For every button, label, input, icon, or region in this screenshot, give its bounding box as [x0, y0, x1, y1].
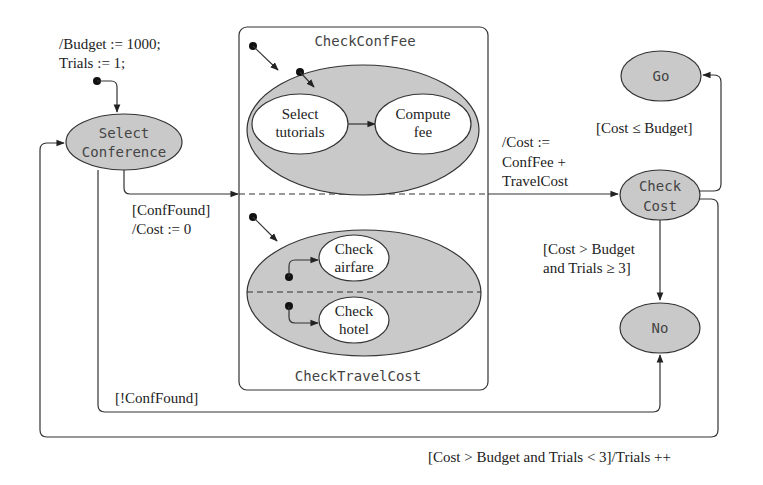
- state-select-conference-line1: Select: [99, 125, 150, 141]
- state-select-conference[interactable]: Select Conference: [66, 114, 182, 170]
- transition-conf-found-line2: /Cost := 0: [132, 221, 191, 237]
- initial-action-line1: /Budget := 1000;: [59, 36, 161, 52]
- substate-compute-fee-line1: Compute: [396, 106, 451, 122]
- transition-to-check-cost-line3: TravelCost: [502, 173, 569, 189]
- transition-retry-label: [Cost > Budget and Trials < 3]/Trials ++: [428, 449, 671, 465]
- state-no[interactable]: No: [620, 303, 700, 353]
- substate-select-tutorials[interactable]: Select tutorials: [252, 94, 348, 154]
- transition-cost-ok: [700, 75, 721, 191]
- substate-check-airfare[interactable]: Check airfare: [319, 235, 389, 281]
- substate-compute-fee-line2: fee: [414, 124, 433, 140]
- substate-check-airfare-line2: airfare: [334, 259, 373, 275]
- substate-check-hotel[interactable]: Check hotel: [319, 297, 389, 343]
- state-check-cost-line2: Cost: [643, 198, 677, 214]
- transition-cost-fail-final-line1: [Cost > Budget: [543, 241, 636, 257]
- substate-compute-fee[interactable]: Compute fee: [375, 94, 471, 154]
- initial-action-line2: Trials := 1;: [59, 55, 125, 71]
- transition-cost-fail-final-line2: and Trials ≥ 3]: [543, 260, 631, 276]
- transition-to-check-cost-line2: ConfFee +: [502, 154, 566, 170]
- state-no-label: No: [652, 320, 669, 336]
- substate-check-hotel-line1: Check: [335, 303, 374, 319]
- state-go[interactable]: Go: [621, 51, 701, 101]
- state-check-cost[interactable]: Check Cost: [620, 170, 700, 220]
- substate-select-tutorials-line1: Select: [282, 106, 319, 122]
- transition-conf-found: [124, 170, 238, 194]
- substate-check-airfare-line1: Check: [335, 241, 374, 257]
- state-check-cost-line1: Check: [639, 178, 682, 194]
- transition-not-found-label: [!ConfFound]: [115, 390, 198, 406]
- transition-conf-found-line1: [ConfFound]: [132, 202, 210, 218]
- transition-to-check-cost-line1: /Cost :=: [502, 134, 550, 150]
- region-check-conf-fee-title: CheckConfFee: [314, 33, 415, 49]
- state-select-conference-line2: Conference: [82, 144, 166, 160]
- state-diagram: /Budget := 1000; Trials := 1; Select Con…: [0, 0, 763, 485]
- transition-cost-ok-label: [Cost ≤ Budget]: [596, 120, 693, 136]
- substate-check-hotel-line2: hotel: [339, 321, 369, 337]
- state-go-label: Go: [653, 68, 670, 84]
- region-check-travel-cost-title: CheckTravelCost: [295, 368, 421, 384]
- substate-select-tutorials-line2: tutorials: [275, 124, 324, 140]
- initial-transition: [97, 81, 117, 112]
